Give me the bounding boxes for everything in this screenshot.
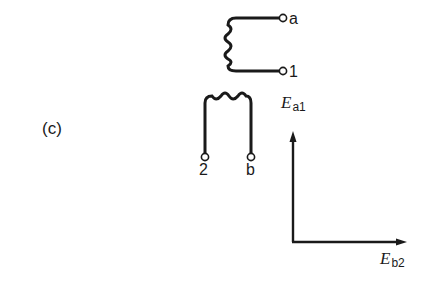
eb2-label: Eb2 — [379, 249, 405, 270]
terminal-1-label: 1 — [289, 63, 298, 80]
diagram-canvas: (c) a 1 2 b Ea1 Eb2 — [0, 0, 445, 286]
winding-top — [225, 18, 279, 71]
terminal-b — [247, 153, 254, 160]
terminal-2 — [201, 153, 208, 160]
arrowhead-right-icon — [396, 239, 407, 246]
winding-bottom — [205, 93, 251, 153]
coil-a1 — [225, 18, 279, 71]
arrowhead-up-icon — [290, 131, 297, 142]
ea1-label: Ea1 — [280, 93, 306, 114]
panel-label: (c) — [42, 119, 62, 138]
terminal-2-label: 2 — [199, 161, 208, 178]
terminal-b-label: b — [246, 161, 255, 178]
terminal-a-label: a — [289, 10, 298, 27]
terminal-1 — [279, 67, 286, 74]
coil-b2 — [205, 93, 251, 153]
terminal-a — [279, 14, 286, 21]
phasor-diagram — [290, 131, 408, 246]
